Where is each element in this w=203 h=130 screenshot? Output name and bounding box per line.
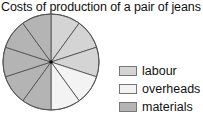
legend-swatch-labour [119, 66, 137, 76]
legend-label: labour [142, 64, 177, 78]
legend-item-overheads: overheads [119, 80, 200, 98]
legend: labour overheads materials [119, 62, 200, 116]
pie-center-dot [49, 60, 53, 64]
legend-swatch-overheads [119, 84, 137, 94]
legend-item-materials: materials [119, 98, 200, 116]
legend-item-labour: labour [119, 62, 200, 80]
legend-label: overheads [142, 82, 200, 96]
legend-label: materials [142, 100, 193, 114]
legend-swatch-materials [119, 102, 137, 112]
